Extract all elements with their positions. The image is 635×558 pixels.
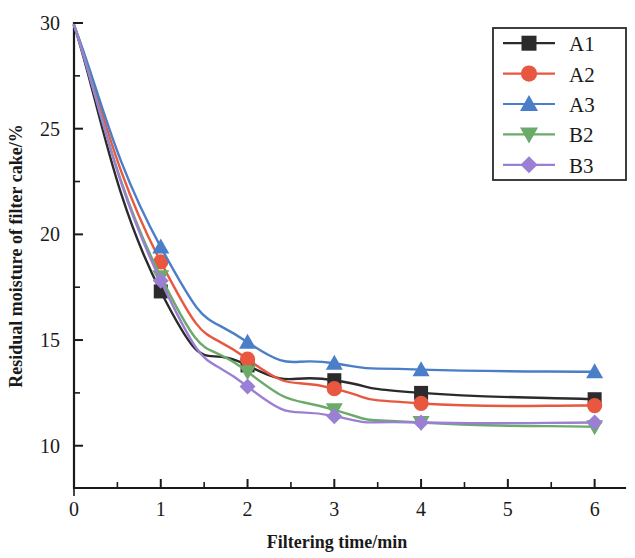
chart-legend: A1A2A3B2B3 [493,28,626,180]
y-axis-title: Residual moisture of filter cake/% [6,124,26,387]
x-tick-label: 3 [329,498,339,520]
legend-label-A2: A2 [569,63,595,87]
legend-label-B3: B3 [569,154,594,178]
x-tick-label: 2 [243,498,253,520]
legend-label-A1: A1 [569,32,595,56]
line-chart: 0123456 1015202530 A1A2A3B2B3 Filtering … [0,0,635,558]
data-point-A3-1 [152,239,169,254]
y-tick-label: 20 [40,223,60,245]
data-point-A2-3 [327,381,342,396]
data-point-A3-2 [239,334,256,349]
y-axis-tick-labels: 1015202530 [40,12,60,457]
legend-marker-A2 [521,66,537,82]
legend-label-A3: A3 [569,93,595,117]
x-axis-title: Filtering time/min [267,532,407,552]
data-point-A2-4 [413,396,428,411]
x-tick-label: 1 [156,498,166,520]
legend-label-B2: B2 [569,123,594,147]
y-tick-label: 10 [40,435,60,457]
data-point-B3-6 [587,414,603,430]
x-axis-tick-labels: 0123456 [69,498,600,520]
x-tick-label: 6 [590,498,600,520]
y-tick-label: 15 [40,329,60,351]
x-tick-label: 5 [503,498,513,520]
legend-marker-A1 [522,36,537,51]
data-point-A2-2 [240,351,255,366]
y-tick-label: 25 [40,118,60,140]
x-tick-label: 0 [69,498,79,520]
y-tick-label: 30 [40,12,60,34]
x-tick-label: 4 [416,498,426,520]
chart-figure: 0123456 1015202530 A1A2A3B2B3 Filtering … [0,0,635,558]
data-point-B2-2 [239,365,256,380]
data-point-A2-6 [587,398,602,413]
